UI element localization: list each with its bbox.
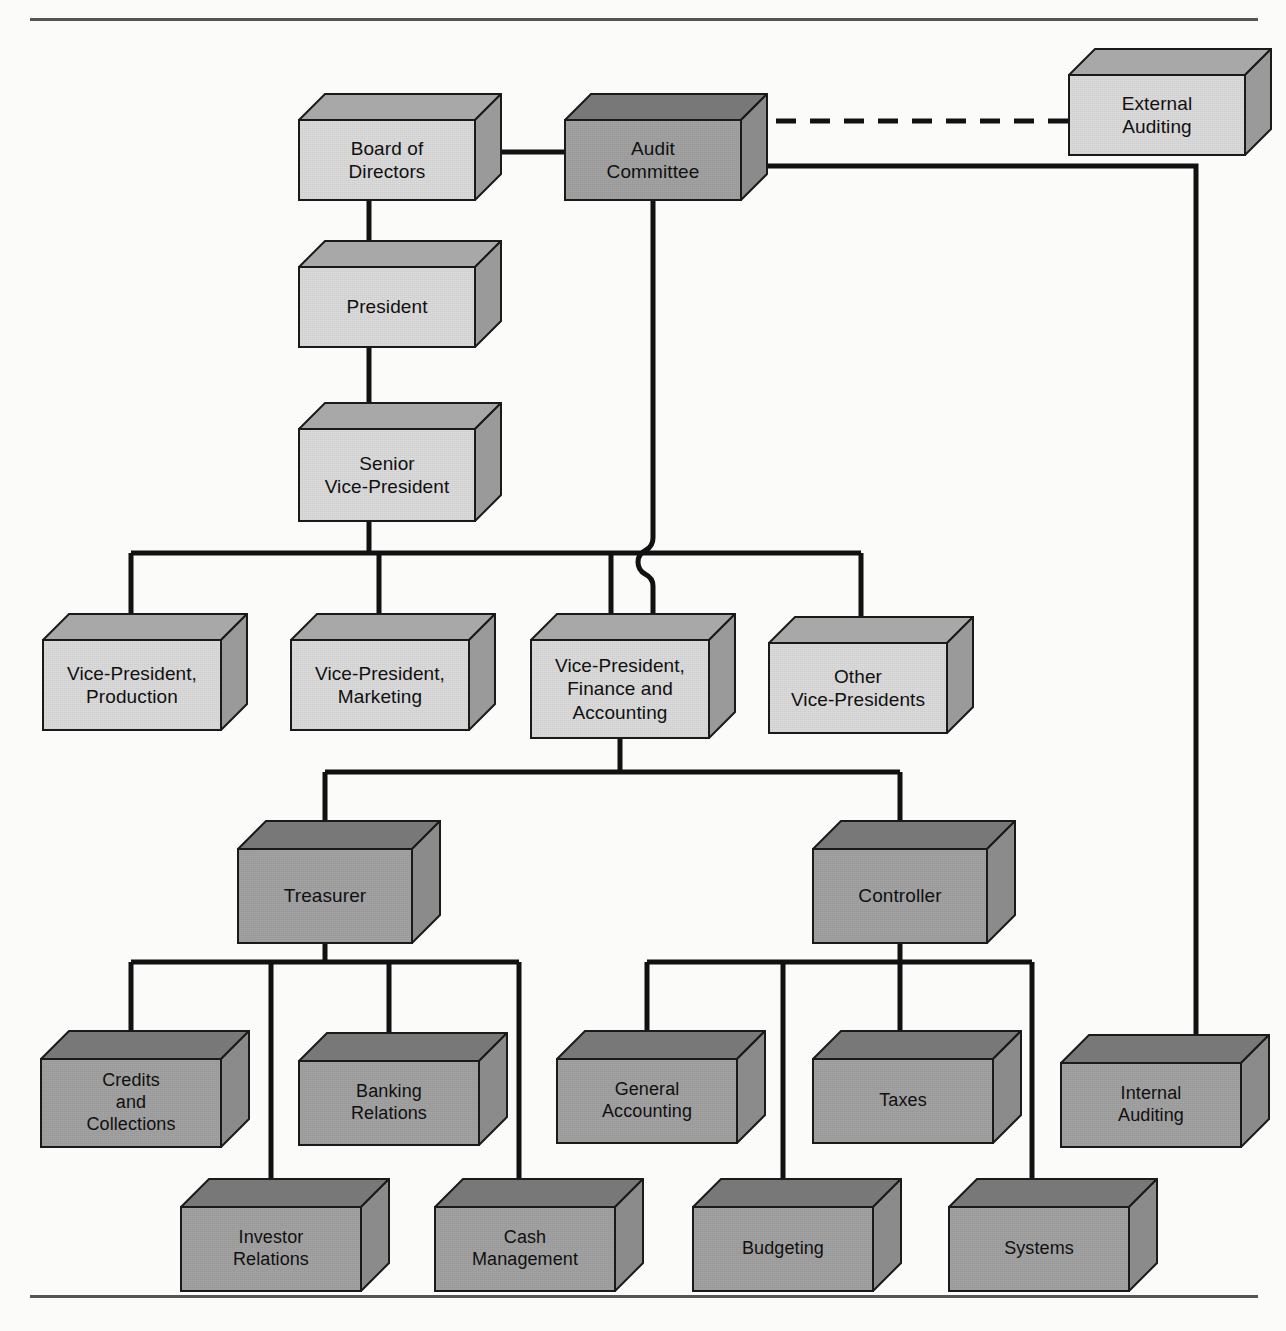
node-label-investor: InvestorRelations xyxy=(227,1227,315,1271)
node-front-face-taxes: Taxes xyxy=(812,1058,994,1144)
node-label-president: President xyxy=(340,295,433,318)
node-label-svp: SeniorVice-President xyxy=(319,452,456,498)
node-front-face-investor: InvestorRelations xyxy=(180,1206,362,1292)
node-label-vp_marketing: Vice-President,Marketing xyxy=(309,662,451,708)
node-front-face-external_audit: ExternalAuditing xyxy=(1068,74,1246,156)
node-top-face xyxy=(299,94,501,120)
node-top-face xyxy=(41,1031,249,1059)
node-label-treasurer: Treasurer xyxy=(278,884,373,907)
node-systems: Systems xyxy=(948,1178,1158,1292)
node-top-face xyxy=(299,241,501,267)
node-top-face xyxy=(435,1179,643,1207)
node-label-vp_finance: Vice-President,Finance andAccounting xyxy=(549,654,691,724)
connector-audit-vpfinance xyxy=(638,175,653,639)
node-label-taxes: Taxes xyxy=(873,1090,933,1112)
node-vp_other: OtherVice-Presidents xyxy=(768,616,974,734)
node-top-face xyxy=(299,403,501,429)
node-top-face xyxy=(1069,49,1271,75)
node-audit_committee: AuditCommittee xyxy=(564,93,768,201)
node-top-face xyxy=(813,821,1015,849)
node-label-credits: CreditsandCollections xyxy=(80,1070,181,1136)
node-front-face-board: Board ofDirectors xyxy=(298,119,476,201)
node-label-external_audit: ExternalAuditing xyxy=(1116,92,1199,138)
node-top-face xyxy=(565,94,767,120)
node-front-face-cash_mgmt: CashManagement xyxy=(434,1206,616,1292)
node-front-face-president: President xyxy=(298,266,476,348)
node-front-face-audit_committee: AuditCommittee xyxy=(564,119,742,201)
node-label-internal_audit: InternalAuditing xyxy=(1112,1083,1190,1127)
node-label-systems: Systems xyxy=(998,1238,1080,1260)
node-front-face-svp: SeniorVice-President xyxy=(298,428,476,522)
node-label-budgeting: Budgeting xyxy=(736,1238,830,1260)
node-external_audit: ExternalAuditing xyxy=(1068,48,1272,156)
bottom-rule xyxy=(30,1295,1258,1298)
top-rule xyxy=(30,18,1258,21)
node-general_acct: GeneralAccounting xyxy=(556,1030,766,1144)
node-board: Board ofDirectors xyxy=(298,93,502,201)
node-label-audit_committee: AuditCommittee xyxy=(601,137,706,183)
node-top-face xyxy=(238,821,440,849)
node-top-face xyxy=(813,1031,1021,1059)
node-front-face-treasurer: Treasurer xyxy=(237,848,413,944)
node-front-face-systems: Systems xyxy=(948,1206,1130,1292)
node-internal_audit: InternalAuditing xyxy=(1060,1034,1270,1148)
node-top-face xyxy=(949,1179,1157,1207)
node-top-face xyxy=(557,1031,765,1059)
node-cash_mgmt: CashManagement xyxy=(434,1178,644,1292)
node-label-vp_production: Vice-President,Production xyxy=(61,662,203,708)
node-budgeting: Budgeting xyxy=(692,1178,902,1292)
node-label-banking: BankingRelations xyxy=(345,1081,433,1125)
node-front-face-controller: Controller xyxy=(812,848,988,944)
node-credits: CreditsandCollections xyxy=(40,1030,250,1148)
node-svp: SeniorVice-President xyxy=(298,402,502,522)
node-treasurer: Treasurer xyxy=(237,820,441,944)
node-label-controller: Controller xyxy=(852,884,947,907)
node-front-face-credits: CreditsandCollections xyxy=(40,1058,222,1148)
node-label-cash_mgmt: CashManagement xyxy=(466,1227,584,1271)
node-label-board: Board ofDirectors xyxy=(343,137,432,183)
node-front-face-vp_production: Vice-President,Production xyxy=(42,639,222,731)
node-top-face xyxy=(1061,1035,1269,1063)
node-label-general_acct: GeneralAccounting xyxy=(596,1079,698,1123)
node-taxes: Taxes xyxy=(812,1030,1022,1144)
node-top-face xyxy=(181,1179,389,1207)
node-vp_production: Vice-President,Production xyxy=(42,613,248,731)
node-front-face-budgeting: Budgeting xyxy=(692,1206,874,1292)
node-controller: Controller xyxy=(812,820,1016,944)
node-top-face xyxy=(693,1179,901,1207)
node-top-face xyxy=(531,614,735,640)
org-chart-figure: Board ofDirectorsAuditCommitteeExternalA… xyxy=(0,0,1286,1331)
node-banking: BankingRelations xyxy=(298,1032,508,1146)
node-top-face xyxy=(291,614,495,640)
node-front-face-vp_finance: Vice-President,Finance andAccounting xyxy=(530,639,710,739)
node-vp_marketing: Vice-President,Marketing xyxy=(290,613,496,731)
node-front-face-vp_marketing: Vice-President,Marketing xyxy=(290,639,470,731)
node-top-face xyxy=(43,614,247,640)
node-investor: InvestorRelations xyxy=(180,1178,390,1292)
node-front-face-vp_other: OtherVice-Presidents xyxy=(768,642,948,734)
node-label-vp_other: OtherVice-Presidents xyxy=(785,665,931,711)
node-president: President xyxy=(298,240,502,348)
node-vp_finance: Vice-President,Finance andAccounting xyxy=(530,613,736,739)
node-front-face-general_acct: GeneralAccounting xyxy=(556,1058,738,1144)
node-top-face xyxy=(769,617,973,643)
node-front-face-banking: BankingRelations xyxy=(298,1060,480,1146)
node-front-face-internal_audit: InternalAuditing xyxy=(1060,1062,1242,1148)
node-top-face xyxy=(299,1033,507,1061)
